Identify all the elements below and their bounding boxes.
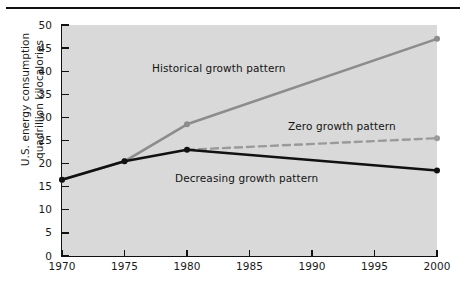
data-point-marker — [59, 177, 65, 183]
series-line-layer — [0, 0, 466, 297]
data-point-marker — [122, 158, 128, 164]
data-point-marker — [434, 135, 440, 141]
series-label-zero-growth-pattern: Zero growth pattern — [288, 120, 396, 132]
data-point-marker — [184, 147, 190, 153]
energy-consumption-chart-figure: 05101520253035404550 1970197519801985199… — [0, 0, 466, 297]
series-label-decreasing-growth-pattern: Decreasing growth pattern — [175, 172, 318, 184]
series-line-historical-growth-pattern — [62, 39, 437, 180]
data-point-marker — [434, 168, 440, 174]
data-point-marker — [184, 121, 190, 127]
series-line-zero-growth-pattern — [187, 138, 437, 150]
data-point-marker — [434, 36, 440, 42]
series-label-historical-growth-pattern: Historical growth pattern — [152, 62, 285, 74]
